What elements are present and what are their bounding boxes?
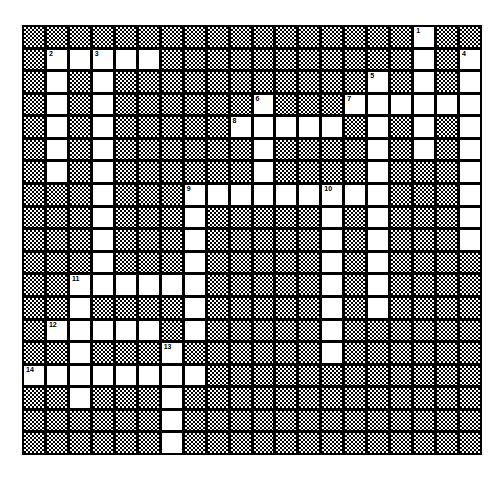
crossword-cell[interactable]: [93, 321, 113, 341]
crossword-cell[interactable]: [47, 140, 67, 160]
crossword-cell[interactable]: [460, 95, 480, 115]
crossword-cell[interactable]: [70, 298, 90, 318]
crossword-cell[interactable]: [185, 275, 205, 295]
crossword-cell[interactable]: [345, 185, 365, 205]
crossword-cell[interactable]: [460, 230, 480, 250]
crossword-cell[interactable]: [460, 162, 480, 182]
crossword-cell[interactable]: 12: [47, 321, 67, 341]
crossword-cell[interactable]: [276, 117, 296, 137]
crossword-cell[interactable]: [70, 321, 90, 341]
crossword-cell[interactable]: [93, 366, 113, 386]
crossword-cell[interactable]: [162, 366, 182, 386]
crossword-cell[interactable]: [460, 208, 480, 228]
crossword-cell[interactable]: [139, 275, 159, 295]
crossword-cell[interactable]: [93, 72, 113, 92]
crossword-cell[interactable]: [460, 72, 480, 92]
crossword-cell[interactable]: [139, 50, 159, 70]
crossword-cell[interactable]: [368, 253, 388, 273]
crossword-cell[interactable]: [47, 366, 67, 386]
crossword-cell[interactable]: [162, 275, 182, 295]
crossword-cell[interactable]: [437, 95, 457, 115]
crossword-cell[interactable]: [208, 185, 228, 205]
crossword-cell[interactable]: [460, 117, 480, 137]
crossword-cell[interactable]: 8: [231, 117, 251, 137]
crossword-cell[interactable]: [414, 95, 434, 115]
crossword-cell[interactable]: [368, 162, 388, 182]
crossword-cell[interactable]: [70, 388, 90, 408]
crossword-cell[interactable]: [460, 140, 480, 160]
crossword-cell[interactable]: [276, 185, 296, 205]
crossword-cell[interactable]: [47, 162, 67, 182]
crossword-cell[interactable]: 3: [93, 50, 113, 70]
crossword-cell[interactable]: [322, 321, 342, 341]
crossword-cell[interactable]: 4: [460, 50, 480, 70]
crossword-cell[interactable]: [47, 72, 67, 92]
crossword-cell[interactable]: [70, 343, 90, 363]
crossword-cell[interactable]: [368, 298, 388, 318]
crossword-cell[interactable]: [368, 185, 388, 205]
crossword-cell[interactable]: [70, 50, 90, 70]
crossword-cell[interactable]: [322, 298, 342, 318]
crossword-cell[interactable]: [185, 208, 205, 228]
crossword-cell[interactable]: [254, 117, 274, 137]
crossword-cell[interactable]: [93, 230, 113, 250]
crossword-cell[interactable]: [414, 72, 434, 92]
crossword-cell[interactable]: [254, 185, 274, 205]
crossword-cell[interactable]: [162, 388, 182, 408]
crossword-cell[interactable]: [322, 117, 342, 137]
crossword-cell[interactable]: [414, 140, 434, 160]
crossword-cell[interactable]: [414, 117, 434, 137]
crossword-cell[interactable]: 9: [185, 185, 205, 205]
crossword-cell[interactable]: 13: [162, 343, 182, 363]
crossword-cell[interactable]: [322, 230, 342, 250]
crossword-cell[interactable]: 7: [345, 95, 365, 115]
crossword-cell[interactable]: [322, 253, 342, 273]
crossword-cell[interactable]: 5: [368, 72, 388, 92]
crossword-cell[interactable]: [299, 185, 319, 205]
crossword-cell[interactable]: [322, 343, 342, 363]
crossword-cell[interactable]: 1: [414, 27, 434, 47]
crossword-cell[interactable]: 10: [322, 185, 342, 205]
crossword-cell[interactable]: [414, 50, 434, 70]
crossword-cell[interactable]: [322, 208, 342, 228]
crossword-cell[interactable]: [460, 185, 480, 205]
crossword-cell[interactable]: [116, 50, 136, 70]
crossword-cell[interactable]: [368, 208, 388, 228]
crossword-cell[interactable]: [368, 117, 388, 137]
crossword-cell[interactable]: [47, 117, 67, 137]
crossword-cell[interactable]: [231, 185, 251, 205]
crossword-cell[interactable]: [47, 95, 67, 115]
crossword-cell[interactable]: [368, 230, 388, 250]
crossword-cell[interactable]: [368, 95, 388, 115]
crossword-cell[interactable]: [254, 140, 274, 160]
crossword-cell[interactable]: [116, 366, 136, 386]
crossword-cell[interactable]: 6: [254, 95, 274, 115]
crossword-cell[interactable]: [322, 275, 342, 295]
crossword-cell[interactable]: [185, 321, 205, 341]
crossword-cell[interactable]: [93, 208, 113, 228]
crossword-cell[interactable]: [299, 117, 319, 137]
crossword-cell[interactable]: [93, 275, 113, 295]
crossword-cell[interactable]: [391, 95, 411, 115]
crossword-cell[interactable]: [93, 253, 113, 273]
crossword-cell[interactable]: [185, 230, 205, 250]
crossword-cell[interactable]: [368, 275, 388, 295]
crossword-cell[interactable]: [162, 433, 182, 453]
crossword-cell[interactable]: [93, 117, 113, 137]
crossword-cell[interactable]: [254, 162, 274, 182]
crossword-cell[interactable]: 11: [70, 275, 90, 295]
crossword-cell[interactable]: [93, 162, 113, 182]
crossword-cell[interactable]: [93, 185, 113, 205]
crossword-cell[interactable]: [185, 298, 205, 318]
crossword-cell[interactable]: [93, 140, 113, 160]
crossword-cell[interactable]: [116, 275, 136, 295]
crossword-cell[interactable]: [70, 366, 90, 386]
crossword-cell[interactable]: [162, 411, 182, 431]
crossword-cell[interactable]: [93, 95, 113, 115]
crossword-cell[interactable]: [139, 366, 159, 386]
crossword-cell[interactable]: [368, 140, 388, 160]
crossword-cell[interactable]: [185, 253, 205, 273]
crossword-cell[interactable]: 2: [47, 50, 67, 70]
crossword-cell[interactable]: [116, 321, 136, 341]
crossword-cell[interactable]: [185, 366, 205, 386]
